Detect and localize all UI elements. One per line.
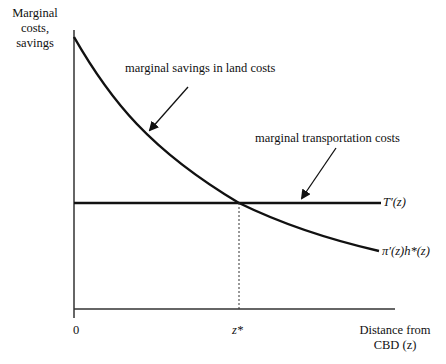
y-axis-label: Marginal costs, savings [2, 6, 68, 51]
y-axis-label-line: costs, [2, 21, 68, 36]
x-axis-label: Distance from CBD (z) [350, 323, 440, 353]
x-axis-label-line: Distance from [350, 323, 440, 338]
x-tick-z-star: z* [232, 323, 243, 338]
transport-cost-arrow [302, 148, 336, 198]
transport-costs-annotation: marginal transportation costs [255, 131, 400, 146]
y-axis-label-line: Marginal [2, 6, 68, 21]
diagram-canvas [0, 0, 446, 364]
transport-cost-curve-label: T′(z) [383, 195, 406, 210]
land-savings-annotation: marginal savings in land costs [125, 61, 275, 76]
x-tick-origin: 0 [73, 323, 79, 338]
y-axis-label-line: savings [2, 36, 68, 51]
x-axis-label-line: CBD (z) [350, 338, 440, 353]
land-savings-curve-label: π′(z)h*(z) [382, 244, 430, 259]
land-savings-arrow [150, 87, 188, 130]
